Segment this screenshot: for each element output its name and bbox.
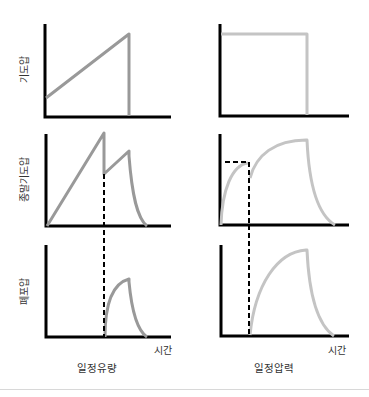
dashed-guide-plateau [225,162,249,225]
row-label-alveolar-pressure: 폐포압 [16,257,31,327]
panel-constant-flow-airway-pressure [45,24,171,117]
panel-constant-pressure-alveolar-pressure [221,245,349,336]
axes [45,24,171,117]
waveform-diagram [0,0,369,397]
end-airway-pressure-curve-initial [221,163,248,225]
airway-pressure-curve [221,34,307,115]
column-caption-constant-flow: 일정유량 [57,360,137,375]
row-label-airway-pressure: 기도압 [16,35,31,105]
panel-constant-pressure-end-airway-pressure [220,134,349,225]
panel-constant-flow-end-airway-pressure [46,133,171,226]
x-axis-label-left: 시간 [154,342,172,357]
alveolar-pressure-curve [250,250,334,336]
airway-pressure-curve [46,34,129,116]
panel-constant-pressure-airway-pressure [220,24,349,116]
panel-constant-flow-alveolar-pressure [46,245,171,337]
column-caption-constant-pressure: 일정압력 [234,360,314,375]
divider-line [0,389,369,390]
row-label-end-airway-pressure: 종말기도압 [16,145,31,215]
x-axis-label-right: 시간 [328,342,346,357]
axes [220,134,349,225]
axes [46,134,171,226]
alveolar-pressure-curve [105,279,147,337]
axes [220,24,349,116]
end-airway-pressure-curve [47,133,147,226]
end-airway-pressure-curve [250,140,335,225]
axes [46,245,171,337]
